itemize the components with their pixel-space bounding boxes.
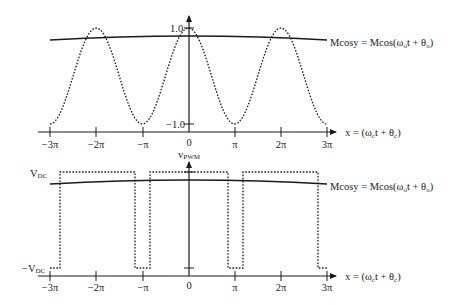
top-x-tick: 3π bbox=[322, 139, 333, 150]
top-x-tick: −π bbox=[137, 139, 149, 150]
neg-vdc-label: −VDC bbox=[22, 263, 46, 275]
bottom-x-tick: π bbox=[232, 282, 238, 293]
bottom-modulating-label: Mcosy = Mcos(ωot + θo) bbox=[330, 181, 434, 194]
bottom-plot: vPWM −3π −2π −π 0 π 2π 3π VDC −VDC bbox=[22, 149, 434, 293]
top-plot: 1.0 −1.0 −3π −2π −π 0 π 2π 3π Mcosy = Mc… bbox=[38, 16, 434, 150]
bottom-x-tick: −2π bbox=[88, 282, 105, 293]
bottom-x-tick: 3π bbox=[322, 282, 333, 293]
bottom-x-tick: −π bbox=[137, 282, 149, 293]
vdc-label: VDC bbox=[30, 168, 48, 180]
bottom-x-tick: −3π bbox=[42, 282, 59, 293]
bottom-x-tick: 0 bbox=[186, 280, 191, 291]
pwm-diagram: 1.0 −1.0 −3π −2π −π 0 π 2π 3π Mcosy = Mc… bbox=[0, 0, 453, 305]
top-y-tick-1: 1.0 bbox=[170, 23, 183, 34]
top-x-axis-label: x = (ωct + θc) bbox=[345, 127, 401, 140]
bottom-x-axis-label: x = (ωct + θc) bbox=[345, 271, 401, 284]
vpwm-axis-label: vPWM bbox=[178, 149, 201, 161]
top-modulating-label: Mcosy = Mcos(ωot + θo) bbox=[330, 37, 434, 50]
top-x-tick: −2π bbox=[88, 139, 105, 150]
top-x-tick: 0 bbox=[186, 137, 191, 148]
bottom-x-tick: 2π bbox=[276, 282, 287, 293]
top-x-tick: π bbox=[232, 139, 238, 150]
top-x-tick: −3π bbox=[42, 139, 59, 150]
top-y-tick-neg1: −1.0 bbox=[166, 119, 185, 130]
top-x-tick: 2π bbox=[276, 139, 287, 150]
